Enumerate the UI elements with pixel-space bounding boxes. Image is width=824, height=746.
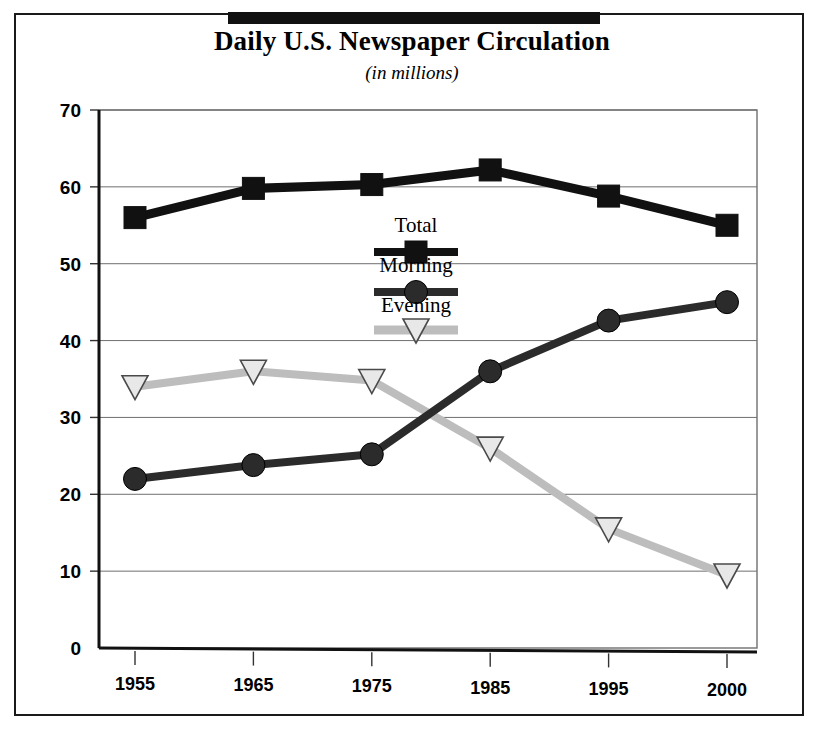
data-point-morning — [242, 454, 265, 477]
y-tick-label: 70 — [60, 100, 81, 121]
y-tick-label: 50 — [60, 254, 81, 275]
x-tick-label: 1955 — [115, 674, 155, 694]
data-point-evening — [714, 564, 740, 588]
data-point-total — [242, 177, 264, 199]
x-tick-label: 1965 — [233, 675, 273, 695]
y-tick-label: 30 — [60, 407, 81, 428]
x-tick-label: 1985 — [470, 678, 510, 698]
data-point-morning — [124, 467, 147, 490]
chart-figure: Daily U.S. Newspaper Circulation (in mil… — [0, 0, 824, 746]
series-morning — [124, 291, 739, 491]
series-evening — [122, 360, 740, 588]
y-tick-label: 20 — [60, 484, 81, 505]
legend-label-total: Total — [395, 213, 438, 237]
legend-label-evening: Evening — [381, 293, 451, 317]
legend-label-morning: Morning — [379, 253, 453, 277]
data-point-total — [479, 159, 501, 181]
y-tick-label: 10 — [60, 561, 81, 582]
x-tick-label: 1995 — [589, 679, 629, 699]
x-tick-label: 1975 — [352, 676, 392, 696]
x-axis-tick-labels: 195519651975198519952000 — [115, 651, 747, 700]
legend-item-evening[interactable]: Evening — [374, 293, 458, 343]
data-point-total — [716, 214, 738, 236]
series-line-evening — [135, 371, 727, 575]
line-chart-svg: 010203040506070 195519651975198519952000… — [0, 0, 824, 746]
y-tick-label: 0 — [70, 638, 81, 659]
data-point-morning — [479, 360, 502, 383]
data-point-total — [124, 207, 146, 229]
y-tick-label: 60 — [60, 177, 81, 198]
data-point-morning — [360, 443, 383, 466]
data-point-total — [598, 185, 620, 207]
x-tick-label: 2000 — [707, 680, 747, 700]
data-point-morning — [597, 309, 620, 332]
chart-legend: TotalMorningEvening — [374, 213, 458, 343]
data-point-total — [361, 174, 383, 196]
plot-area: 010203040506070 195519651975198519952000… — [0, 0, 824, 746]
y-axis-tick-labels: 010203040506070 — [60, 100, 81, 659]
y-tick-label: 40 — [60, 331, 81, 352]
data-point-morning — [716, 291, 739, 314]
